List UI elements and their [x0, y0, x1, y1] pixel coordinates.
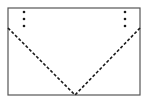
- envelope-diagram: [0, 0, 148, 104]
- right-dot-column-dot-2: [124, 18, 127, 21]
- left-dot-column-dot-2: [23, 18, 26, 21]
- right-dot-column-dot-3: [124, 25, 127, 28]
- figure-canvas: [0, 0, 148, 104]
- left-dot-column-dot-3: [23, 25, 26, 28]
- left-dot-column-dot-1: [23, 11, 26, 14]
- right-dot-column-dot-1: [124, 11, 127, 14]
- figure-background: [0, 0, 148, 104]
